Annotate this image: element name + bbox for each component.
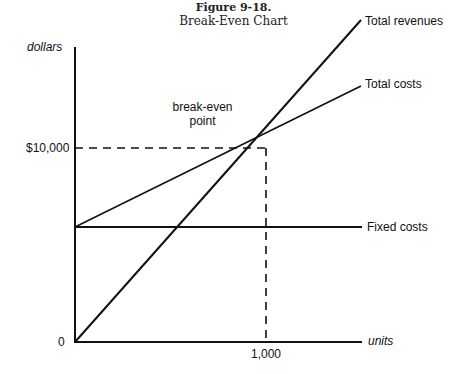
- break-even-point-label: break-even point: [160, 100, 245, 128]
- total-revenues-line: [75, 20, 361, 342]
- origin-label: 0: [58, 335, 65, 349]
- break-even-chart: [0, 0, 467, 374]
- break-even-label-line2: point: [160, 114, 245, 128]
- total-revenues-label: Total revenues: [365, 14, 443, 28]
- break-even-label-line1: break-even: [160, 100, 245, 114]
- total-costs-label: Total costs: [365, 77, 422, 91]
- fixed-costs-label: Fixed costs: [367, 220, 428, 234]
- x-axis-label: units: [368, 334, 393, 348]
- y-tick-label-10000: $10,000: [26, 141, 69, 155]
- y-axis-label: dollars: [27, 40, 62, 54]
- x-tick-label-1000: 1,000: [251, 347, 281, 361]
